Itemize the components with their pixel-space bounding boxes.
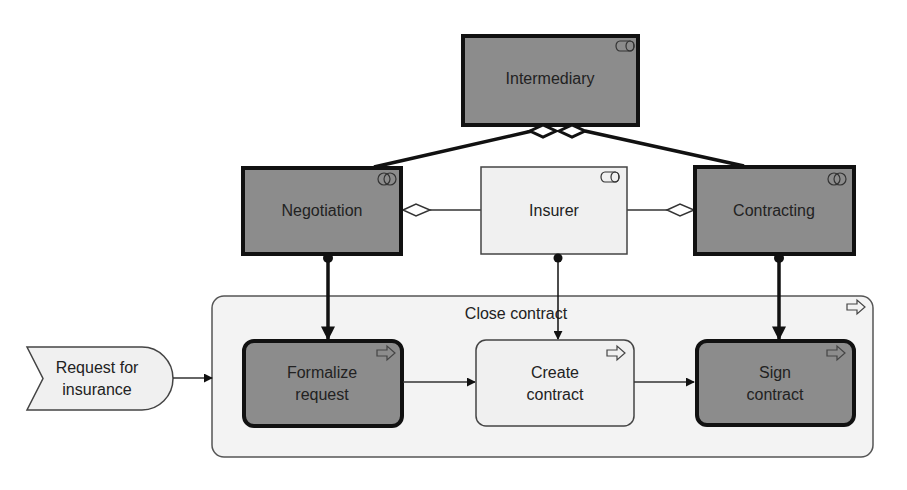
create-label-line1: Create xyxy=(531,364,579,381)
intermediary-role[interactable]: Intermediary xyxy=(463,36,638,125)
formalize-label-line2: request xyxy=(295,386,349,403)
insurer-role[interactable]: Insurer xyxy=(481,167,627,254)
request-label-line1: Request for xyxy=(56,359,139,376)
sign-label-line2: contract xyxy=(747,386,804,403)
formalize-label-line1: Formalize xyxy=(287,364,357,381)
negotiation-collaboration[interactable]: Negotiation xyxy=(243,168,401,254)
formalize-request-process[interactable]: Formalize request xyxy=(244,341,402,426)
create-label-line2: contract xyxy=(527,386,584,403)
request-for-insurance-event[interactable]: Request for insurance xyxy=(27,347,173,410)
request-label-line2: insurance xyxy=(62,381,131,398)
negotiation-label: Negotiation xyxy=(282,202,363,219)
aggregation-intermediary-contracting xyxy=(585,131,744,166)
intermediary-label: Intermediary xyxy=(506,70,595,87)
contracting-collaboration[interactable]: Contracting xyxy=(695,167,854,254)
sign-label-line1: Sign xyxy=(759,364,791,381)
sign-contract-process[interactable]: Sign contract xyxy=(697,341,854,425)
create-contract-process[interactable]: Create contract xyxy=(476,340,634,426)
contracting-label: Contracting xyxy=(733,202,815,219)
aggregation-negotiation-insurer xyxy=(403,204,481,216)
aggregation-contracting-insurer xyxy=(627,204,694,216)
close-contract-label: Close contract xyxy=(465,305,568,322)
insurer-label: Insurer xyxy=(529,202,579,219)
aggregation-intermediary-negotiation xyxy=(374,131,532,167)
archimate-diagram: Close contract Intermediary Negotiati xyxy=(0,0,907,490)
